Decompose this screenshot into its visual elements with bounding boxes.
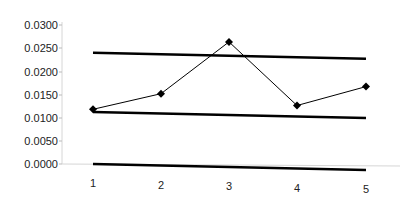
y-tick-label: 0.0300 (24, 19, 58, 31)
series-layer (89, 38, 370, 170)
x-tick-label: 2 (153, 179, 169, 191)
upper-control-line (93, 53, 366, 59)
x-tick-label: 1 (85, 177, 101, 189)
y-tick-label: 0.0250 (24, 42, 58, 54)
y-tick-label: 0.0100 (24, 112, 58, 124)
chart-plot-area (0, 0, 410, 199)
data (93, 42, 366, 109)
y-tick-label: 0.0150 (24, 89, 58, 101)
x-tick-label: 4 (289, 182, 305, 194)
y-tick-label: 0.0200 (24, 66, 58, 78)
x-tick-label: 5 (358, 183, 374, 195)
data-point-marker (157, 90, 165, 98)
lower-control-line (93, 112, 366, 118)
control-chart: 0.03000.02500.02000.01500.01000.00500.00… (0, 0, 410, 199)
data-point-marker (362, 83, 370, 91)
y-tick-label: 0.0000 (24, 158, 58, 170)
x-tick-label: 3 (221, 180, 237, 192)
y-tick-label: 0.0050 (24, 135, 58, 147)
